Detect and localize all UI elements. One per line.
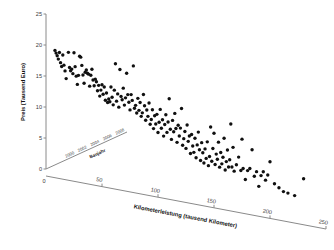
scatter-point [92,84,95,87]
scatter-point [200,141,203,144]
scatter-point [141,111,144,114]
scatter-point [148,123,151,126]
scatter-point [123,103,126,106]
scatter-point [215,152,218,155]
scatter-point [189,152,192,155]
scatter-point [277,186,280,189]
scatter-point [264,178,267,181]
scatter-point [187,140,190,143]
scatter-point [282,190,285,193]
scatter-point [134,104,137,107]
scatter-point [73,65,76,68]
tick-label: 25 [36,11,42,17]
scatter-point [211,147,214,150]
scatter-point [116,92,119,95]
scatter-point [90,67,93,70]
scatter-point [286,191,289,194]
scatter-point [120,98,123,101]
scatter-point [253,174,256,177]
scatter-point [216,158,219,161]
scatter-point [128,108,131,111]
scatter-point [145,108,148,111]
scatter-point [206,140,209,143]
scatter-point [235,163,238,166]
scatter-point [57,57,60,60]
tick-label: 2002 [77,144,88,153]
scatter-point [110,95,113,98]
scatter-point [88,84,91,87]
x-axis-line [46,176,326,229]
scatter-point [203,147,206,150]
scatter-point [302,177,305,180]
scatter-point [67,51,70,54]
scatter-point [185,123,188,126]
scatter-point [133,107,136,110]
scatter-point [114,62,117,65]
scatter-point [157,121,160,124]
scatter-point [240,137,243,140]
scatter-point [143,104,146,107]
scatter-point [172,130,175,133]
scatter-point [178,134,181,137]
y-axis-title: Preis (Tausend Euro) [20,63,26,121]
scatter-point [59,61,62,64]
scatter-point [174,127,177,130]
scatter-point [198,148,201,151]
scatter-point [181,144,184,147]
scatter-point [81,73,84,76]
scatter-point [171,119,174,122]
scatter-point [208,155,211,158]
tick-label: 0 [39,166,42,172]
scatter-point [226,148,229,151]
z-axis-title: Baujahr [89,148,107,160]
scatter-point [219,151,222,154]
scatter-point [193,137,196,140]
scatter-point [182,137,185,140]
scatter-point [176,124,179,127]
scatter-point [268,160,271,163]
scatter-point [146,115,149,118]
scatter-point [196,143,199,146]
scatter-point [140,115,143,118]
scatter-point [293,194,296,197]
scatter-point [255,170,258,173]
tick-label: 10 [36,104,42,110]
scatter-point [118,68,121,71]
scatter-point [168,97,171,100]
scatter-point [56,54,59,57]
scatter-point [197,130,200,133]
scatter-point [217,140,220,143]
scatter-point [218,165,221,168]
scatter-point [70,67,73,70]
scatter-point [179,126,182,129]
scatter-point [165,131,168,134]
scatter-point [129,93,132,96]
scatter-point [204,157,207,160]
tick-label: 2008 [115,127,126,136]
scatter-point [257,185,260,188]
scatter-point [266,173,269,176]
tick-label: 200 [262,208,272,216]
tick-label: 20 [36,42,42,48]
scatter-point [89,73,92,76]
scatter-point [220,162,223,165]
scatter-point [113,88,116,91]
plot-canvas: 0510152025 050100150200250 2000200220042… [0,0,334,250]
scatter-point [210,160,213,163]
scatter-point [108,100,111,103]
scatter-point [190,133,193,136]
scatter-point [166,120,169,123]
tick-label: 250 [318,218,328,226]
scatter-point [222,137,225,140]
scatter-point [71,72,74,75]
scatter-point [151,108,154,111]
scatter-point [241,167,244,170]
tick-label: 2006 [102,133,113,142]
tick-label: 150 [206,197,216,205]
scatter-point [212,132,215,135]
scatter-point [125,72,128,75]
scatter-point [135,111,138,114]
scatter-point [225,160,228,163]
tick-label: 0 [42,178,45,184]
scatter-point [230,165,233,168]
